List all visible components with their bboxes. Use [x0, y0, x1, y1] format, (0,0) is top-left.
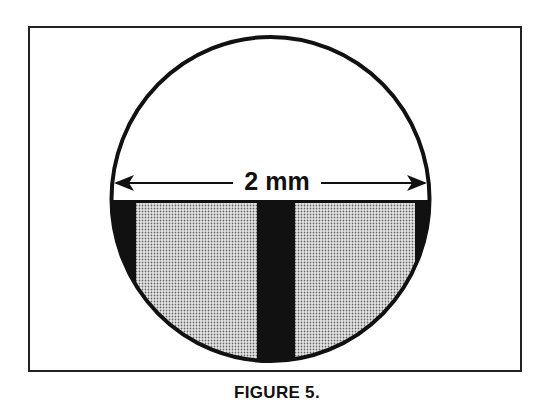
stippled-region-right: [295, 203, 415, 373]
measurement-label: 2 mm: [233, 166, 321, 196]
figure-diagram: [0, 0, 554, 408]
stippled-region-left: [136, 203, 257, 373]
lower-half-fill: [100, 200, 440, 373]
figure-caption: FIGURE 5.: [0, 383, 554, 403]
